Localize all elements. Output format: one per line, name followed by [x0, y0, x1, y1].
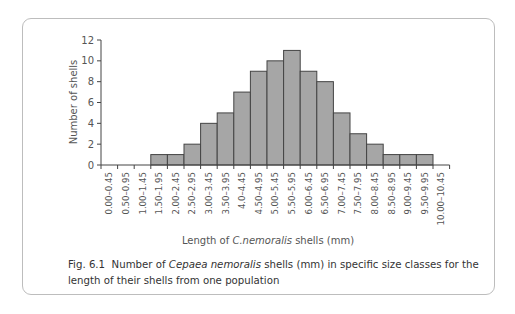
caption-species: Cepaea nemoralis: [169, 259, 261, 270]
histogram-bar: [267, 61, 284, 165]
histogram-bar: [284, 50, 301, 165]
x-tick-label: 7.50–7.95: [353, 172, 363, 215]
x-tick-label: 1.00–1.45: [138, 172, 148, 215]
x-tick-label: 3.50–3.95: [221, 172, 231, 215]
histogram-bar: [333, 113, 350, 165]
x-axis-label: Length of C.nemoralis shells (mm): [182, 235, 354, 246]
x-tick-label: 0.00–0.45: [104, 172, 114, 215]
histogram-bar: [201, 123, 218, 165]
histogram-bar: [416, 155, 433, 165]
x-tick-label: 0.50–0.95: [121, 172, 131, 215]
histogram-bar: [300, 71, 317, 165]
histogram-bar: [167, 155, 184, 165]
x-tick-label: 6.50–6.95: [320, 172, 330, 215]
x-tick-label: 5.00–5.45: [270, 172, 280, 215]
histogram-bar: [184, 144, 201, 165]
y-tick-label: 6: [88, 97, 94, 108]
histogram-bar: [317, 82, 334, 165]
x-tick-label: 9.50–9.95: [420, 172, 430, 215]
y-tick-label: 12: [81, 35, 94, 46]
x-tick-label: 4.0–4.45: [237, 172, 247, 209]
x-tick-label: 10.00–10.45: [436, 172, 446, 226]
caption-label: Fig. 6.1: [68, 259, 105, 270]
histogram-bar: [151, 155, 168, 165]
y-tick-label: 2: [88, 139, 94, 150]
x-tick-label: 8.50–8.95: [387, 172, 397, 215]
x-tick-label: 2.50–2.95: [187, 172, 197, 215]
histogram-bar: [400, 155, 417, 165]
y-axis-label: Number of shells: [68, 60, 79, 145]
x-tick-label: 2.00–2.45: [171, 172, 181, 215]
x-tick-label: 5.50–5.95: [287, 172, 297, 215]
y-tick-label: 10: [81, 55, 94, 66]
y-tick-label: 8: [88, 76, 94, 87]
x-tick-label: 9.00–9.45: [403, 172, 413, 215]
x-tick-label: 1.50–1.95: [154, 172, 164, 215]
x-tick-label: 6.00–6.45: [304, 172, 314, 215]
y-tick-label: 0: [88, 160, 94, 171]
x-tick-label: 7.00–7.45: [337, 172, 347, 215]
histogram-bar: [217, 113, 234, 165]
figure-caption: Fig. 6.1 Number of Cepaea nemoralis shel…: [68, 257, 488, 289]
y-tick-label: 4: [88, 118, 94, 129]
histogram-bar: [367, 144, 384, 165]
histogram-bar: [383, 155, 400, 165]
x-tick-label: 4.50–4.95: [254, 172, 264, 215]
histogram-bar: [250, 71, 267, 165]
histogram-bar: [350, 134, 367, 165]
histogram-bar: [234, 92, 251, 165]
caption-text-before: Number of: [112, 259, 169, 270]
x-tick-label: 8.00–8.45: [370, 172, 380, 215]
x-tick-label: 3.00–3.45: [204, 172, 214, 215]
